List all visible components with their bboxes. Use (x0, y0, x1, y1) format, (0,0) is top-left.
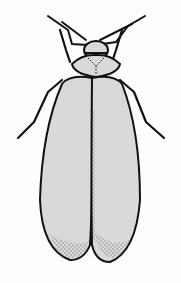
beetle-illustration (0, 0, 181, 283)
right-elytron (92, 77, 141, 262)
beetle-drawing (0, 0, 181, 283)
pronotum (72, 55, 120, 77)
left-elytron (40, 77, 92, 260)
